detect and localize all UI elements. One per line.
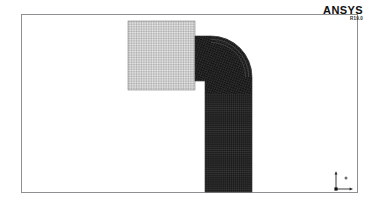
structured-grid-block <box>128 21 195 90</box>
mesh-view-window: ANSYS R19.0 <box>0 0 369 207</box>
axis-origin-marker <box>334 187 337 190</box>
elbow-pipe-mesh <box>190 30 260 195</box>
ansys-logo-text: ANSYS <box>323 5 363 16</box>
ansys-version-label: R19.0 <box>323 17 363 22</box>
axis-triad <box>332 169 362 195</box>
ansys-branding: ANSYS R19.0 <box>323 5 363 22</box>
mesh-canvas <box>0 0 369 207</box>
axis-x-arrow <box>336 188 353 191</box>
axis-y-arrow <box>335 171 338 189</box>
axis-z-marker <box>345 177 348 180</box>
